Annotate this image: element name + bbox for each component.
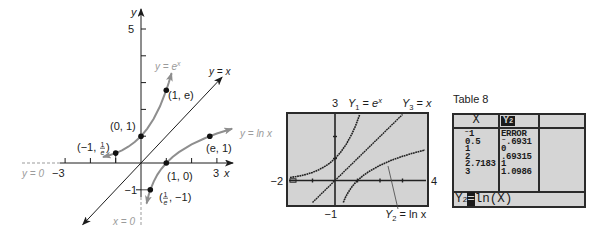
- calculator-screen: [287, 113, 428, 206]
- data-point: [148, 187, 154, 193]
- legend-y3: Y3 = x: [402, 97, 432, 112]
- svg-text:1: 1: [101, 141, 105, 148]
- svg-text:(−1,: (−1,: [77, 141, 96, 153]
- calc-ymax-label: 3: [332, 97, 338, 109]
- log-curve-label: y = ln x: [239, 128, 273, 139]
- function-entry-line: Y2=ln(X): [455, 193, 512, 206]
- svg-text:, −1): , −1): [169, 191, 191, 203]
- svg-text:): ): [106, 141, 110, 153]
- x-axis-label: x: [223, 167, 230, 179]
- point-label-neg1-inv-e: (−1, 1 e ): [77, 141, 110, 156]
- x-tick-label-neg3: −3: [52, 167, 65, 179]
- svg-text:e: e: [164, 199, 168, 206]
- y-tick-label-neg1: −1: [124, 184, 137, 196]
- y-e-x-curve: [103, 73, 172, 157]
- data-point: [164, 160, 170, 166]
- data-point: [138, 133, 144, 139]
- data-point: [113, 150, 119, 156]
- identity-line-label: y = x: [208, 66, 231, 77]
- left-graph: y x 5 −1 −3 3 y = 0 x = 0 y = ex y = x y…: [21, 6, 273, 227]
- cell-y2: 1.0986: [501, 168, 532, 176]
- table-title: Table 8: [453, 93, 488, 105]
- cell-x: 3: [465, 168, 470, 176]
- column-header-x: X: [454, 114, 498, 127]
- y-tick-label-5: 5: [128, 23, 134, 35]
- legend-y1: Y1 = ex: [348, 96, 382, 112]
- calculator-graph: 3 −2 4 −1 Y1 = ex Y3 = x Y2 = ln x: [270, 96, 437, 223]
- vertical-asymptote-label: x = 0: [112, 216, 135, 227]
- y-axis-label: y: [130, 6, 138, 18]
- data-point: [207, 133, 213, 139]
- calculator-table: X Y2 ⁻1 ERROR 0.5 ⁻.6931 1 0 2 .69315 2.…: [452, 113, 586, 208]
- point-label-inv-e-neg1: ( 1 e , −1): [159, 191, 191, 206]
- calc-ymin-label: −1: [324, 208, 337, 220]
- exp-curve-label: y = ex: [154, 60, 181, 72]
- svg-text:1: 1: [164, 191, 168, 198]
- column-header-y2: Y2: [501, 116, 515, 126]
- svg-text:e: e: [101, 149, 105, 156]
- svg-text:(: (: [159, 191, 163, 203]
- point-label-e-1: (e, 1): [206, 142, 232, 154]
- point-label-1-e: (1, e): [168, 89, 194, 101]
- point-label-0-1: (0, 1): [110, 120, 136, 132]
- calc-xmax-label: 4: [431, 175, 437, 187]
- point-label-1-0: (1, 0): [167, 170, 193, 182]
- horizontal-asymptote-label: y = 0: [21, 168, 44, 179]
- calc-xmin-label: −2: [270, 175, 283, 187]
- legend-y2: Y2 = ln x: [385, 208, 427, 223]
- entry-cursor: =: [467, 192, 475, 206]
- x-tick-label-3: 3: [213, 167, 219, 179]
